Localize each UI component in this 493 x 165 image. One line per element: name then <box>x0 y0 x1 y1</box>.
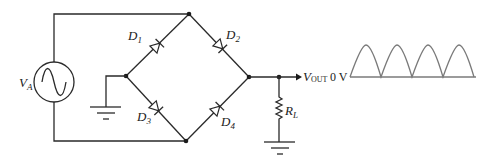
ground-left-icon <box>90 76 126 119</box>
bottom-wire <box>54 102 186 141</box>
load-resistor-icon <box>276 77 282 142</box>
top-wire <box>54 14 189 62</box>
diode-d4-label: D4 <box>220 114 235 131</box>
output-arrow-icon <box>296 74 302 81</box>
zero-volt-label: 0 V <box>330 70 348 84</box>
rectified-waveform <box>350 45 474 77</box>
vout-label: VOUT <box>303 69 328 84</box>
diode-d2-label: D2 <box>225 27 240 44</box>
load-resistor-label: RL <box>284 103 298 120</box>
source-label: VA <box>19 75 33 92</box>
diode-d3-label: D3 <box>136 109 151 126</box>
sine-wave-icon <box>42 69 66 96</box>
diode-d1-label: D1 <box>127 28 142 45</box>
node-top <box>187 12 192 17</box>
node-bottom <box>184 139 189 144</box>
ac-source <box>34 62 74 102</box>
bridge-rectifier-diagram: VA D1 D2 D3 D4 <box>0 0 493 165</box>
ground-right-icon <box>264 142 295 154</box>
